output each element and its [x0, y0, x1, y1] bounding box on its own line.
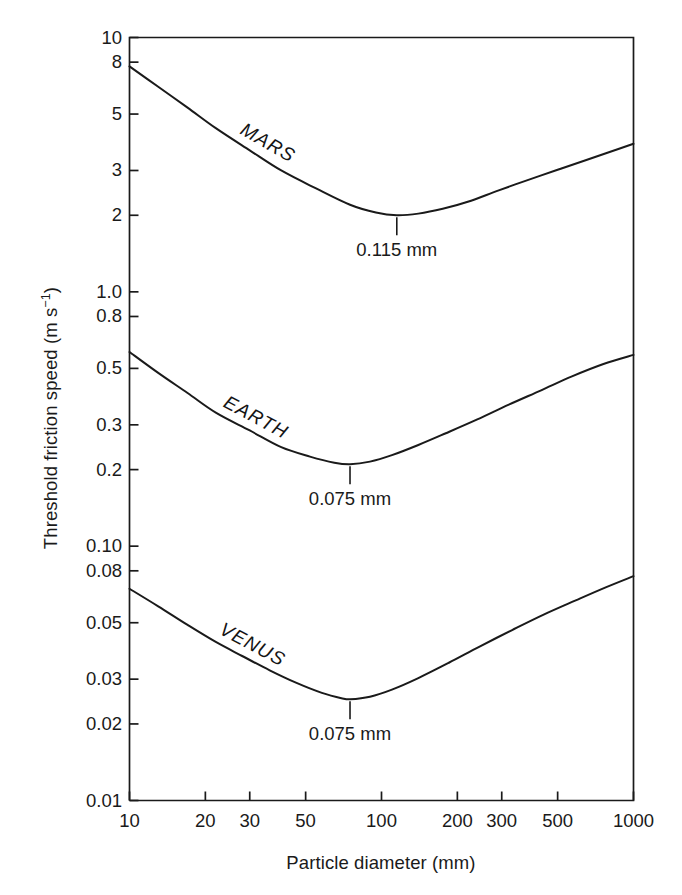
minimum-label-earth: 0.075 mm	[270, 488, 430, 510]
x-tick-label: 100	[342, 812, 422, 831]
y-tick-label: 0.8	[2, 307, 122, 326]
x-tick-label: 500	[518, 812, 598, 831]
axes-frame	[130, 38, 634, 801]
curve-venus	[130, 576, 634, 699]
y-tick-label: 0.10	[2, 537, 122, 556]
axis-ticks	[130, 38, 634, 801]
y-tick-label: 0.03	[2, 670, 122, 689]
curve-earth	[130, 352, 634, 464]
x-tick-label: 1000	[594, 812, 674, 831]
data-curves	[130, 66, 634, 699]
x-axis-title: Particle diameter (mm)	[129, 852, 633, 874]
y-tick-label: 1.0	[2, 283, 122, 302]
y-tick-label: 0.5	[2, 359, 122, 378]
y-tick-label: 2	[2, 206, 122, 225]
minimum-label-venus: 0.075 mm	[270, 723, 430, 745]
minimum-label-mars: 0.115 mm	[317, 239, 477, 261]
plot-area	[0, 0, 682, 895]
y-tick-label: 0.05	[2, 614, 122, 633]
y-tick-label: 0.01	[2, 792, 122, 811]
y-tick-label: 3	[2, 161, 122, 180]
y-tick-label: 8	[2, 53, 122, 72]
x-tick-label: 50	[266, 812, 346, 831]
y-tick-label: 0.3	[2, 416, 122, 435]
threshold-friction-speed-chart: Threshold friction speed (m s−1) Particl…	[0, 0, 682, 895]
y-tick-label: 0.2	[2, 461, 122, 480]
curve-mars	[130, 66, 634, 215]
y-tick-label: 10	[2, 29, 122, 48]
x-tick-label: 10	[90, 812, 170, 831]
y-tick-label: 0.02	[2, 715, 122, 734]
y-tick-label: 0.08	[2, 562, 122, 581]
y-tick-label: 5	[2, 105, 122, 124]
minimum-tick-marks	[350, 217, 397, 719]
